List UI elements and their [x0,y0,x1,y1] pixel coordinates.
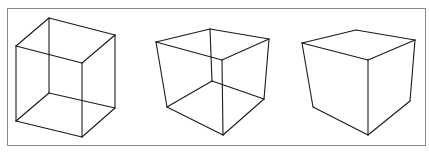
cube-edge [368,40,415,60]
cube-edge [222,60,223,135]
perspective-cube-wireframe [156,29,269,135]
cube-edge [210,29,269,39]
cube-edge [49,18,115,35]
figure-frame [8,9,426,146]
cube-edge [167,107,223,135]
cube-edge [223,99,264,135]
cube-edge [410,40,415,101]
cube-edge [16,121,82,137]
cube-edge [167,81,212,107]
cube-edge [302,43,368,60]
cube-edge [368,101,410,135]
cube-edge [313,107,368,135]
cube-edge [222,39,269,60]
cube-edge [16,93,49,121]
cube-edge [82,35,115,63]
cube-edge [356,30,415,40]
solid-cube [302,30,415,135]
cube-edge [82,108,115,137]
cube-edge [210,29,212,81]
cube-edge [156,42,222,60]
cube-edge [212,81,264,99]
cube-edge [302,43,313,107]
cube-edge [302,30,356,43]
cube-edge [16,18,49,46]
cube-edge [156,42,167,107]
cube-edge [264,39,269,99]
cube-edge [156,29,210,42]
cube-figure [0,0,429,152]
necker-cube-wireframe [16,18,115,137]
